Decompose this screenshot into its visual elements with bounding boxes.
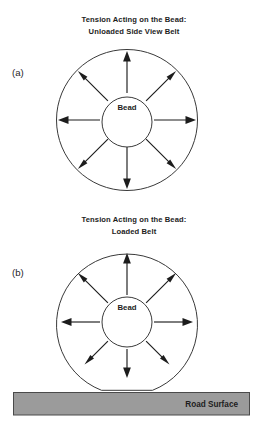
tension-arrow-down <box>123 147 131 189</box>
tension-arrow-right <box>154 318 193 326</box>
panel-b: Tension Acting on the Bead: Loaded Belt … <box>12 215 250 415</box>
tension-arrow-up-right <box>146 71 176 101</box>
tension-arrow-down-right <box>146 139 176 169</box>
bead-label-unloaded: Bead <box>117 103 136 112</box>
tension-arrow-down <box>123 349 131 378</box>
tension-arrow-up-left <box>78 273 108 303</box>
tension-arrow-right <box>154 116 196 124</box>
road-surface-label: Road Surface <box>185 400 238 409</box>
tension-arrow-down-right <box>146 341 169 364</box>
figure-tension-on-bead: Tension Acting on the Bead: Unloaded Sid… <box>0 0 264 427</box>
tension-arrow-down-left <box>78 139 108 169</box>
tension-arrow-up <box>123 253 131 295</box>
panel-a-title-line1: Tension Acting on the Bead: <box>82 15 187 24</box>
tension-arrow-up-left <box>78 71 108 101</box>
tension-arrow-up <box>123 51 131 93</box>
panel-b-title-line1: Tension Acting on the Bead: <box>82 215 187 224</box>
panel-a-title-line2: Unloaded Side View Belt <box>89 27 180 36</box>
bead-label-loaded: Bead <box>117 303 136 312</box>
panel-a-label: (a) <box>12 67 24 78</box>
tension-arrow-up-right <box>146 273 176 303</box>
tension-arrow-left <box>58 116 100 124</box>
tension-arrow-down-left <box>85 341 108 364</box>
panel-b-title-line2: Loaded Belt <box>112 227 157 236</box>
panel-b-label: (b) <box>12 267 24 278</box>
panel-a: Tension Acting on the Bead: Unloaded Sid… <box>12 15 198 191</box>
tension-arrow-left <box>61 318 100 326</box>
